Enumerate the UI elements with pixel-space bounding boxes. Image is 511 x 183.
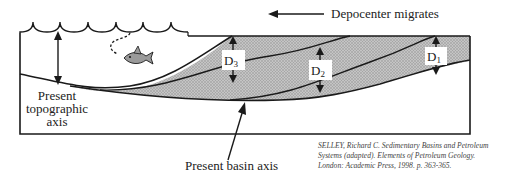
depocenter-label: Depocenter migrates: [331, 6, 439, 21]
citation-line-1: SELLEY, Richard C. Sedimentary Basins an…: [318, 141, 489, 150]
topographic-axis-label-line3: axis: [47, 114, 68, 129]
fish-icon: [111, 33, 153, 64]
water-surface-waves: [20, 22, 188, 33]
citation-line-2: Systems (adapted). Elements of Petroleum…: [318, 151, 475, 160]
topographic-axis-arrow: [54, 31, 62, 85]
basin-diagram: D3 D2 D1 Depocenter migrates Present top…: [0, 0, 511, 183]
citation-line-3: London: Academic Press, 1998. p. 363-365…: [317, 161, 452, 170]
arrow-left-icon: [268, 10, 278, 18]
basin-axis-pointer: [228, 102, 246, 160]
depocenter-arrow: [268, 10, 324, 18]
basin-axis-label: Present basin axis: [185, 158, 278, 173]
